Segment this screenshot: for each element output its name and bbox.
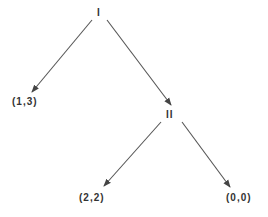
node-player-i: I	[97, 7, 100, 19]
edge-node-ii-to-payoff-0-0	[182, 122, 230, 187]
edge-root-to-node-ii	[107, 20, 171, 105]
payoff-2-2: (2,2)	[79, 192, 105, 204]
payoff-0-0: (0,0)	[226, 192, 252, 204]
tree-edges	[0, 0, 268, 217]
payoff-1-3: (1,3)	[12, 96, 38, 108]
edge-node-ii-to-payoff-2-2	[104, 122, 161, 186]
edge-root-to-payoff-1-3	[32, 20, 92, 92]
node-player-ii: II	[166, 109, 174, 121]
